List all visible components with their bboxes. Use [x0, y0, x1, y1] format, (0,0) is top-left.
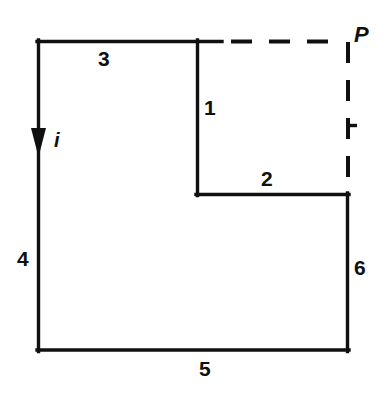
- figure-root: 3 1 2 4 5 6 i P: [0, 0, 387, 398]
- segment-2-label: 2: [261, 168, 273, 189]
- segment-3-label: 3: [98, 48, 110, 69]
- loop-diagram-svg: [0, 0, 387, 398]
- current-label: i: [54, 130, 60, 150]
- segment-5-label: 5: [199, 358, 211, 379]
- figure-background: [0, 0, 387, 398]
- segment-4-label: 4: [17, 248, 29, 269]
- segment-1-label: 1: [204, 97, 216, 118]
- point-p-label: P: [354, 24, 369, 46]
- segment-6-label: 6: [354, 257, 366, 278]
